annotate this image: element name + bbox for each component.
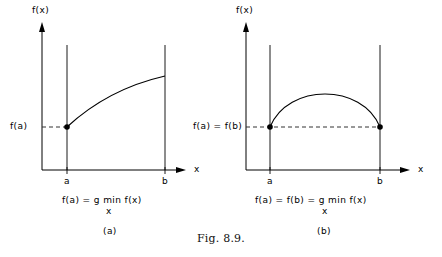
figure-8-9: f(x) x f(a) a b f(a) = g min f(x) x (a): [0, 0, 442, 257]
panel-a: f(x) x f(a) a b f(a) = g min f(x) x (a): [0, 0, 221, 257]
equation-b: f(a) = f(b) = g min f(x): [255, 196, 367, 205]
curve-increasing-concave: [67, 76, 165, 127]
y-axis-b: [243, 22, 249, 170]
panel-b: f(x) x f(a) = f(b) a b f(a) = f(b) = g m…: [204, 0, 425, 257]
x-axis-label-b: x: [418, 165, 424, 174]
point-a: [267, 124, 273, 130]
curve-arch-dome: [270, 94, 380, 127]
figure-caption: Fig. 8.9.: [0, 232, 442, 245]
tick-label-b: b: [162, 177, 168, 186]
point-a: [64, 124, 70, 130]
tick-label-a: a: [267, 177, 273, 186]
point-b: [377, 124, 383, 130]
equation-subscript-a: x: [106, 207, 112, 216]
y-axis-label-a: f(x): [32, 6, 49, 15]
value-label-fa-fb: f(a) = f(b): [193, 122, 242, 131]
y-axis-label-b: f(x): [236, 6, 253, 15]
tick-label-a: a: [64, 177, 70, 186]
x-axis-label-a: x: [194, 165, 200, 174]
equation-subscript-b: x: [322, 207, 328, 216]
x-axis-b: [246, 167, 410, 173]
tick-label-b: b: [377, 177, 383, 186]
x-axis-a: [42, 167, 186, 173]
equation-a: f(a) = g min f(x): [62, 196, 142, 205]
y-axis-a: [39, 22, 45, 170]
value-label-fa: f(a): [10, 122, 27, 131]
